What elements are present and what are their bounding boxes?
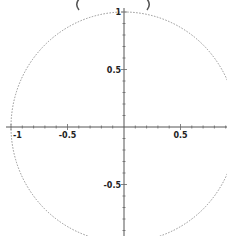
circle-path <box>11 12 227 236</box>
x-tick-label: -1 <box>13 131 22 140</box>
x-tick-label: 0.5 <box>173 131 188 140</box>
y-tick-label: 1 <box>115 8 121 17</box>
circle-plot: -1-0.50.510.5-0.5 <box>0 0 227 236</box>
caption-right-paren <box>146 0 149 10</box>
caption-left-paren <box>77 0 80 10</box>
y-tick-label: 0.5 <box>107 66 122 75</box>
tick-labels: -1-0.50.510.5-0.5 <box>13 8 188 190</box>
y-tick-label: -0.5 <box>104 181 122 190</box>
x-tick-label: -0.5 <box>59 131 77 140</box>
unit-circle-curve <box>11 12 227 236</box>
axes <box>6 8 227 236</box>
